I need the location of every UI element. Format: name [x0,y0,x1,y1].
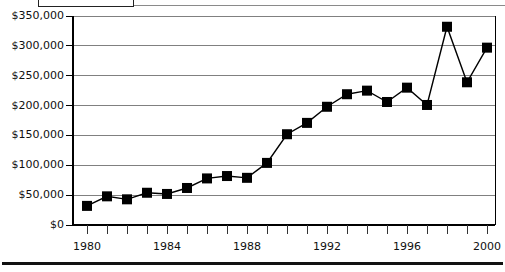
x-axis-tick-label: 1992 [302,241,352,252]
y-axis-tick-label: $150,000 [12,129,65,140]
data-point-marker [342,89,352,99]
data-point-marker [102,191,112,201]
data-point-marker [402,83,412,93]
y-axis-tick-label: $50,000 [19,189,65,200]
gridlines-group [66,16,495,225]
data-point-marker [422,100,432,110]
bottom-divider-rule [2,262,503,265]
data-point-marker [322,102,332,112]
axes-group [73,16,495,225]
x-axis-tick-label: 1980 [62,241,112,252]
y-axis-tick-label: $350,000 [12,10,65,21]
data-point-marker [162,189,172,199]
y-axis-tick-label: $200,000 [12,100,65,111]
data-series-line [87,27,487,206]
data-point-marker [382,97,392,107]
data-point-marker [262,158,272,168]
data-point-marker [462,77,472,87]
y-axis-tick-label: $100,000 [12,159,65,170]
data-markers-group [82,22,492,211]
x-axis-tick-label: 1996 [382,241,432,252]
data-point-marker [362,86,372,96]
x-axis-tick-label: 1988 [222,241,272,252]
x-axis-tick-label: 2000 [462,241,505,252]
y-axis-tick-label: $300,000 [12,40,65,51]
xticks-group [87,225,487,234]
data-point-marker [142,188,152,198]
data-point-marker [202,173,212,183]
data-point-marker [302,118,312,128]
data-point-marker [222,171,232,181]
data-point-marker [482,43,492,53]
x-axis-tick-label: 1984 [142,241,192,252]
data-point-marker [122,194,132,204]
data-point-marker [282,129,292,139]
y-axis-tick-label: $250,000 [12,70,65,81]
chart-svg-canvas [0,0,505,272]
data-point-marker [242,173,252,183]
line-chart: $0$50,000$100,000$150,000$200,000$250,00… [0,0,505,272]
data-line-group [87,27,487,206]
y-axis-tick-label: $0 [50,219,64,230]
data-point-marker [182,183,192,193]
data-point-marker [82,201,92,211]
data-point-marker [442,22,452,32]
